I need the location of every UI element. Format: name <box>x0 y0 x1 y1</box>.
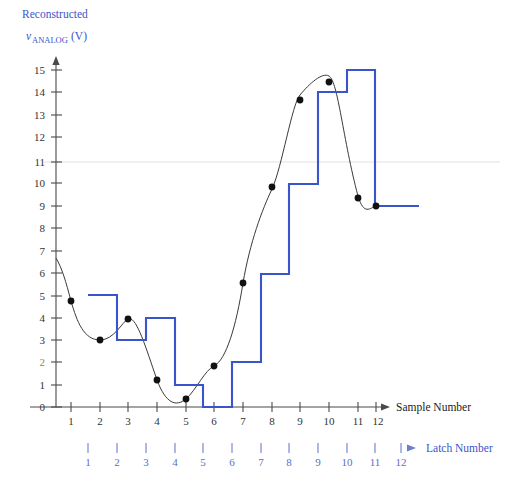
latch-tick-label-5: 5 <box>200 456 206 468</box>
sample-point-6 <box>211 363 218 370</box>
sample-point-7 <box>240 280 247 287</box>
x-tick-label-11: 11 <box>353 415 364 427</box>
sample-point-8 <box>269 184 276 191</box>
latch-axis-title: Latch Number <box>426 442 493 454</box>
y-tick-label-13: 13 <box>34 109 46 121</box>
y-tick-label-5: 5 <box>40 290 46 302</box>
y-tick-label-12: 12 <box>34 131 45 143</box>
y-tick-label-3: 3 <box>40 334 46 346</box>
x-axis-arrow <box>381 403 390 410</box>
x-axis-title: Sample Number <box>396 401 471 414</box>
y-axis-arrow <box>52 56 59 65</box>
latch-tick-label-11: 11 <box>370 456 381 468</box>
y-tick-label-2: 2 <box>40 356 46 368</box>
y-tick-label-14: 14 <box>34 86 46 98</box>
x-tick-label-8: 8 <box>269 415 275 427</box>
sample-point-11 <box>355 195 362 202</box>
sample-point-9 <box>297 97 304 104</box>
y-axis-title-line1: Reconstructed <box>22 8 88 20</box>
latch-tick-label-3: 3 <box>143 456 149 468</box>
x-tick-label-6: 6 <box>211 415 217 427</box>
x-tick-label-12: 12 <box>373 415 384 427</box>
latch-tick-label-10: 10 <box>342 456 354 468</box>
x-tick-label-7: 7 <box>240 415 246 427</box>
sample-point-2 <box>97 337 104 344</box>
x-tick-label-3: 3 <box>125 415 131 427</box>
y-tick-label-10: 10 <box>34 177 46 189</box>
y-tick-label-6: 6 <box>40 267 46 279</box>
latch-tick-label-2: 2 <box>114 456 120 468</box>
y-tick-label-8: 8 <box>40 222 46 234</box>
x-tick-label-4: 4 <box>154 415 160 427</box>
latch-tick-label-4: 4 <box>172 456 178 468</box>
latch-tick-label-6: 6 <box>229 456 235 468</box>
reconstructed-analog-chart: 15 14 13 12 11 10 9 8 7 6 5 4 3 2 1 0 Re… <box>0 0 506 477</box>
latch-tick-label-8: 8 <box>286 456 292 468</box>
y-axis <box>51 56 62 407</box>
y-tick-label-11: 11 <box>34 156 45 168</box>
latch-tick-label-7: 7 <box>258 456 264 468</box>
y-axis-title-subscript: ANALOG <box>32 35 68 45</box>
sample-point-markers <box>68 79 380 403</box>
latch-number-axis <box>62 443 416 453</box>
y-tick-label-1: 1 <box>40 379 46 391</box>
latch-tick-label-9: 9 <box>315 456 321 468</box>
x-tick-label-10: 10 <box>324 415 336 427</box>
chart-canvas: 15 14 13 12 11 10 9 8 7 6 5 4 3 2 1 0 Re… <box>0 0 506 477</box>
sample-point-10 <box>326 79 333 86</box>
sample-point-4 <box>154 377 161 384</box>
reconstructed-analog-curve <box>56 75 376 403</box>
x-tick-label-2: 2 <box>97 415 103 427</box>
latch-axis-arrow <box>407 444 416 451</box>
y-axis-title-units: (V) <box>71 30 87 43</box>
y-tick-label-7: 7 <box>40 245 46 257</box>
y-tick-label-9: 9 <box>40 200 46 212</box>
latch-tick-label-12: 12 <box>396 456 407 468</box>
sample-point-1 <box>68 298 75 305</box>
x-tick-label-5: 5 <box>183 415 189 427</box>
y-tick-label-15: 15 <box>34 64 46 76</box>
x-tick-label-1: 1 <box>68 415 74 427</box>
sample-point-3 <box>125 316 132 323</box>
x-tick-label-9: 9 <box>297 415 303 427</box>
sample-point-12 <box>373 203 380 210</box>
sample-point-5 <box>183 396 190 403</box>
y-tick-label-4: 4 <box>40 312 46 324</box>
latch-tick-label-1: 1 <box>85 456 91 468</box>
